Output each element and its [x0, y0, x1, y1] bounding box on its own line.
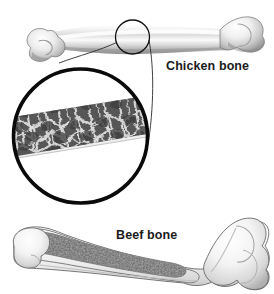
beef-bone-label: Beef bone: [116, 229, 177, 242]
chicken-bone-illustration: [27, 17, 264, 62]
callout-connector-right: [149, 40, 153, 142]
chicken-bone-label: Chicken bone: [166, 60, 249, 73]
bone-diagram-figure: [0, 0, 274, 294]
chicken-bone-right-end: [220, 17, 264, 52]
